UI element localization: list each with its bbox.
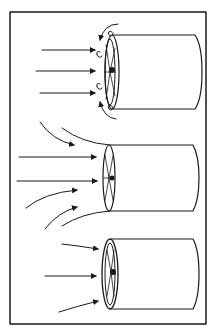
fan-hub-bottom (110, 269, 116, 275)
panel-top (36, 24, 202, 119)
panel-bottom (45, 239, 199, 312)
fan-hub-middle (110, 176, 115, 181)
airflow-diagram (0, 0, 214, 330)
duct-top (113, 35, 202, 109)
inflow-arrows-bottom (45, 244, 98, 312)
fan-middle (103, 145, 115, 211)
arrow (62, 244, 98, 249)
duct-middle (110, 145, 199, 211)
arrow (59, 301, 98, 312)
arrow (26, 190, 77, 208)
fan-hub-top (109, 67, 115, 73)
inflow-arrows-top (36, 50, 95, 93)
inflow-arrows-middle (17, 122, 97, 229)
panel-middle (17, 122, 199, 229)
arrow (45, 207, 77, 229)
fan-bottom (102, 239, 118, 309)
fan-top (105, 35, 119, 109)
duct-bottom (111, 239, 199, 309)
arrow (40, 122, 74, 145)
